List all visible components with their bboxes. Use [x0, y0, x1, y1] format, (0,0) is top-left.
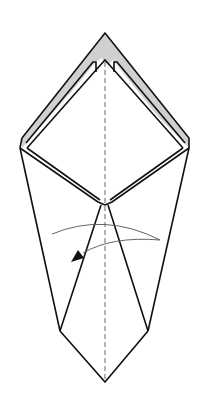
origami-diagram	[0, 0, 202, 398]
bottom-point	[60, 331, 148, 382]
left-flap-edge	[60, 205, 101, 331]
outer-left-corner	[20, 138, 22, 148]
fold-arrow-upper-arc	[52, 224, 160, 240]
fold-arrow-head-icon	[71, 250, 84, 262]
right-flap-edge	[108, 205, 148, 331]
outer-left-side	[20, 148, 60, 331]
